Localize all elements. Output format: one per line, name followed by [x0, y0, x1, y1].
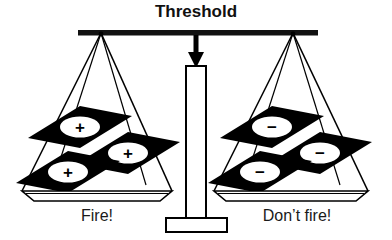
down-arrow-icon — [188, 35, 204, 68]
pan-left-label: Fire! — [81, 207, 113, 224]
pan-right-tiles: − − − — [208, 106, 372, 193]
tile-symbol: + — [63, 163, 73, 182]
balance-scale-illustration: Threshold — [0, 0, 392, 240]
diagram-canvas: Threshold — [0, 0, 392, 240]
pan-left-group: + + + Fire! — [16, 32, 180, 224]
tile-symbol: + — [123, 144, 133, 163]
pan-left-tiles: + + + — [16, 106, 180, 193]
tile-symbol: + — [75, 118, 85, 137]
balance-beam — [78, 30, 318, 36]
tile-symbol: − — [267, 118, 277, 137]
pan-left-tray — [22, 191, 172, 201]
pan-right-group: − − − Don’t fire! — [208, 32, 372, 224]
base-plate — [166, 218, 227, 232]
pan-right-tray — [214, 191, 368, 201]
tile-symbol: − — [255, 163, 265, 182]
pan-right-label: Don’t fire! — [263, 207, 331, 224]
center-pillar — [186, 66, 206, 220]
diagram-title: Threshold — [155, 2, 237, 21]
tile-symbol: − — [315, 144, 325, 163]
